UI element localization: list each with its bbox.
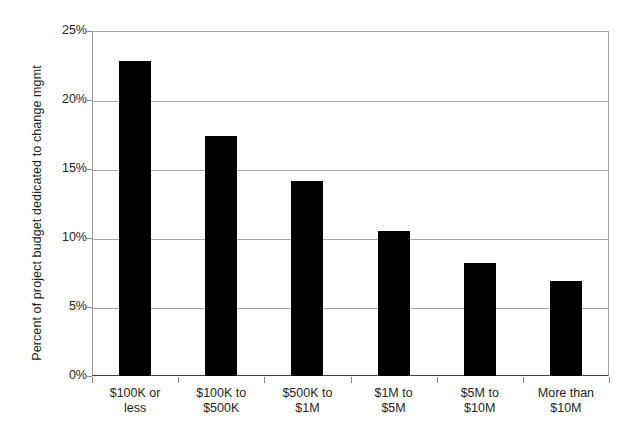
x-tick-mark-6: [609, 377, 610, 383]
x-category-label-line: $1M to: [351, 386, 437, 401]
y-tick-label-20%: 20%: [47, 93, 87, 105]
x-tick-mark-3: [351, 377, 352, 383]
bar-6: [550, 281, 582, 376]
x-category-label-line: $10M: [437, 401, 523, 416]
y-tick-label-10%: 10%: [47, 231, 87, 243]
bar-5: [464, 263, 496, 376]
bar-2: [205, 136, 237, 376]
x-category-label-line: $100K or: [92, 386, 178, 401]
x-category-label-line: $5M: [351, 401, 437, 416]
bar-chart: Percent of project budget dedicated to c…: [0, 0, 642, 440]
bar-1: [119, 61, 151, 376]
y-tick-label-15%: 15%: [47, 162, 87, 174]
y-tick-label-0%: 0%: [47, 369, 87, 381]
x-category-label-line: $100K to: [178, 386, 264, 401]
x-category-label-line: $500K: [178, 401, 264, 416]
x-category-label-line: $10M: [523, 401, 609, 416]
x-tick-mark-4: [437, 377, 438, 383]
x-tick-mark-2: [264, 377, 265, 383]
x-category-label-line: less: [92, 401, 178, 416]
x-category-label-3: $500K to$1M: [264, 386, 350, 416]
x-category-label-line: $500K to: [264, 386, 350, 401]
y-axis-tick-group: 0%5%10%15%20%25%: [40, 0, 87, 440]
bar-4: [378, 231, 410, 376]
x-category-label-line: $5M to: [437, 386, 523, 401]
x-category-label-6: More than$10M: [523, 386, 609, 416]
x-category-label-line: More than: [523, 386, 609, 401]
x-category-label-1: $100K orless: [92, 386, 178, 416]
x-tick-mark-5: [523, 377, 524, 383]
bars-layer: [92, 31, 609, 376]
y-tick-label-25%: 25%: [47, 24, 87, 36]
x-tick-mark-0: [92, 377, 93, 383]
bar-3: [291, 181, 323, 376]
x-category-label-4: $1M to$5M: [351, 386, 437, 416]
x-category-label-line: $1M: [264, 401, 350, 416]
x-tick-mark-1: [178, 377, 179, 383]
x-category-label-5: $5M to$10M: [437, 386, 523, 416]
y-tick-label-5%: 5%: [47, 300, 87, 312]
x-category-label-2: $100K to$500K: [178, 386, 264, 416]
